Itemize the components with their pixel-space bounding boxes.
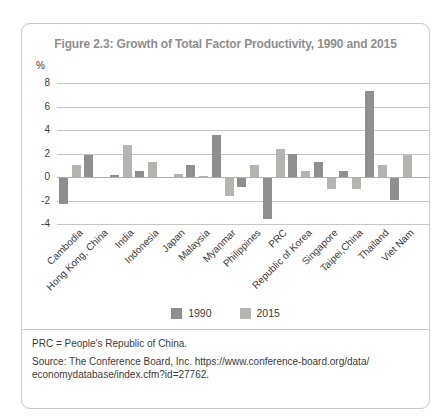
legend-item-2015: 2015 <box>240 307 280 319</box>
source-text: Source: The Conference Board, Inc. https… <box>32 356 369 381</box>
footer-divider <box>22 329 429 330</box>
figure-page: Figure 2.3: Growth of Total Factor Produ… <box>0 0 447 416</box>
legend-label-2015: 2015 <box>257 307 280 319</box>
legend-item-1990: 1990 <box>171 307 211 319</box>
figure-card: Figure 2.3: Growth of Total Factor Produ… <box>21 23 430 409</box>
legend-swatch-1990 <box>171 308 182 319</box>
prc-note: PRC = People's Republic of China. <box>32 338 187 349</box>
source-line-1: Source: The Conference Board, Inc. https… <box>32 356 369 369</box>
legend-swatch-2015 <box>240 308 251 319</box>
x-axis-labels: CambodiaHong Kong, ChinaIndiaIndonesiaJa… <box>22 24 429 408</box>
source-line-2: economydatabase/index.cfm?id=27762. <box>32 369 369 382</box>
legend-label-1990: 1990 <box>188 307 211 319</box>
chart-legend: 19902015 <box>22 307 429 319</box>
